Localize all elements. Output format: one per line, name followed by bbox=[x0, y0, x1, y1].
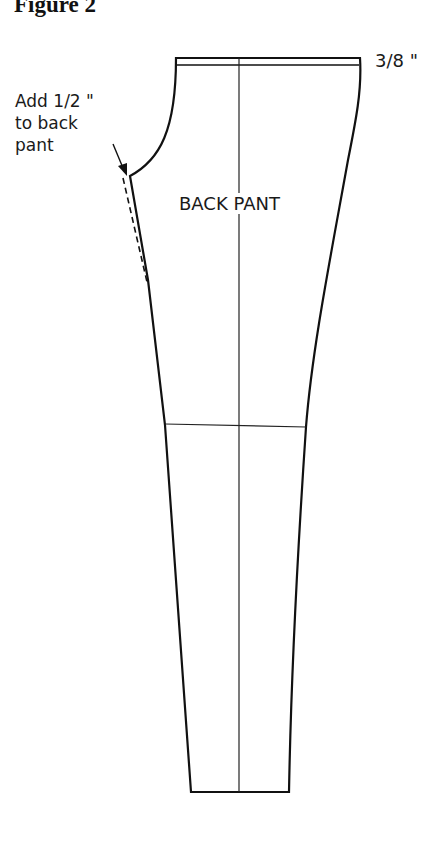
waistband-width-label: 3/8 " bbox=[375, 50, 418, 71]
arrow-head-icon bbox=[118, 163, 127, 176]
pattern-outline bbox=[130, 58, 360, 792]
piece-label: BACK PANT bbox=[178, 193, 281, 214]
note-line-1: Add 1/2 " bbox=[15, 90, 125, 112]
add-half-inch-note: Add 1/2 " to back pant bbox=[15, 90, 125, 156]
knee-line bbox=[165, 424, 306, 427]
note-line-2: to back bbox=[15, 112, 125, 134]
note-line-3: pant bbox=[15, 134, 125, 156]
added-seam-dashed-line bbox=[123, 178, 147, 282]
